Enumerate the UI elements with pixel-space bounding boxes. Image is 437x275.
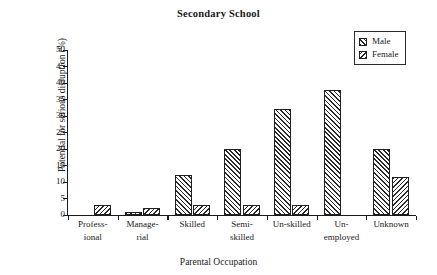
y-tick-label: 35 xyxy=(56,94,65,105)
x-tick-label-line: Unknown xyxy=(360,219,422,231)
bar-female-6 xyxy=(392,177,409,215)
bar-male-5 xyxy=(324,90,341,215)
x-tick-label-line: rial xyxy=(112,232,174,244)
bar-female-1 xyxy=(143,208,160,215)
bar-female-4 xyxy=(292,205,309,215)
bar-male-2 xyxy=(175,175,192,215)
y-tick-label: 30 xyxy=(56,110,65,121)
bar-male-4 xyxy=(274,109,291,215)
x-tick-label-line: skilled xyxy=(211,232,273,244)
y-tick-label: 50 xyxy=(56,44,65,55)
bar-male-6 xyxy=(373,149,390,215)
plot-area: 05101520253035404550 xyxy=(68,50,416,215)
x-tick-label: Unknown xyxy=(360,219,422,231)
y-tick-label: 40 xyxy=(56,77,65,88)
x-axis-title: Parental Occupation xyxy=(0,257,437,267)
y-tick-label: 20 xyxy=(56,143,65,154)
legend-label-male: Male xyxy=(372,37,391,46)
chart-title: Secondary School xyxy=(0,8,437,19)
y-tick-label: 5 xyxy=(61,193,66,204)
y-axis-title-container: Potential for serious disruption (%) xyxy=(28,50,42,215)
bar-female-3 xyxy=(243,205,260,215)
y-tick-label: 15 xyxy=(56,160,65,171)
chart-container: Secondary School Male Female Potential f… xyxy=(0,0,437,275)
legend-item-male: Male xyxy=(359,35,399,48)
y-tick-label: 45 xyxy=(56,61,65,72)
bar-male-3 xyxy=(224,149,241,215)
x-axis-tick-labels: Profess-ionalManage-rialSkilledSemi-skil… xyxy=(68,219,416,253)
y-tick-label: 25 xyxy=(56,127,65,138)
bar-female-0 xyxy=(94,205,111,215)
bar-female-2 xyxy=(193,205,210,215)
x-tick-label-line: employed xyxy=(311,232,373,244)
legend-swatch-male-icon xyxy=(359,38,367,46)
y-tick-label: 10 xyxy=(56,176,65,187)
bar-male-1 xyxy=(125,212,142,215)
x-axis-line xyxy=(67,215,416,216)
